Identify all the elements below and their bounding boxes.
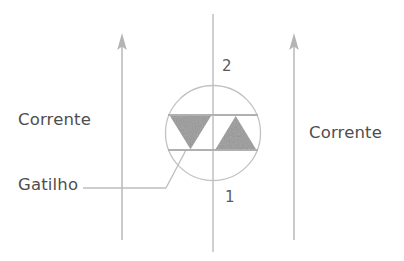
label-gatilho: Gatilho <box>18 177 78 194</box>
triangle-right <box>216 116 257 149</box>
label-corrente-left: Corrente <box>18 112 91 129</box>
label-corrente-right: Corrente <box>309 125 382 142</box>
current-arrow-right <box>289 33 299 240</box>
triangle-left <box>170 116 211 149</box>
label-terminal-2: 2 <box>222 59 232 74</box>
figure-canvas: Corrente Corrente Gatilho 2 1 <box>0 0 404 261</box>
current-arrow-left <box>117 33 127 240</box>
label-terminal-1: 1 <box>225 190 235 205</box>
